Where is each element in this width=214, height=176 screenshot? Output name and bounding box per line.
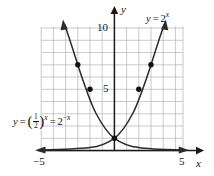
growth-lhs: y xyxy=(146,13,151,24)
growth-equals: = xyxy=(153,13,159,24)
data-point xyxy=(112,136,117,141)
y-axis-label: y xyxy=(121,3,126,15)
decay-fraction-numerator: 1 xyxy=(33,113,39,121)
data-point xyxy=(75,62,80,67)
decay-fraction-denominator: 2 xyxy=(33,121,39,130)
decay-paren-open: ( xyxy=(28,113,33,129)
data-point xyxy=(148,62,153,67)
curve-label-growth: y=2x xyxy=(146,10,169,24)
decay-lhs: y xyxy=(13,116,18,127)
x-axis-label: x xyxy=(196,157,201,169)
y-tick-label-10: 10 xyxy=(97,21,108,33)
decay-paren-close: ) xyxy=(39,113,44,129)
exponential-function-graph-figure: 10 5 −5 5 y x y=2x y=(12)x=2−x xyxy=(0,0,214,176)
x-tick-label-minus5: −5 xyxy=(33,155,45,167)
decay-equals-1: = xyxy=(20,116,26,127)
curve-label-decay: y=(12)x=2−x xyxy=(13,113,70,131)
data-point xyxy=(136,87,141,92)
data-point xyxy=(87,87,92,92)
growth-exponent: x xyxy=(166,10,169,19)
decay-exponent-2-var: x xyxy=(67,113,70,122)
decay-exponent-1: x xyxy=(44,113,47,122)
decay-fraction: 12 xyxy=(33,113,39,129)
grid-lines xyxy=(41,27,183,152)
y-tick-label-5: 5 xyxy=(103,82,109,94)
x-tick-label-5: 5 xyxy=(179,155,185,167)
curve-growth xyxy=(35,20,168,154)
curve-decay xyxy=(61,20,190,154)
decay-equals-2: = xyxy=(50,116,56,127)
